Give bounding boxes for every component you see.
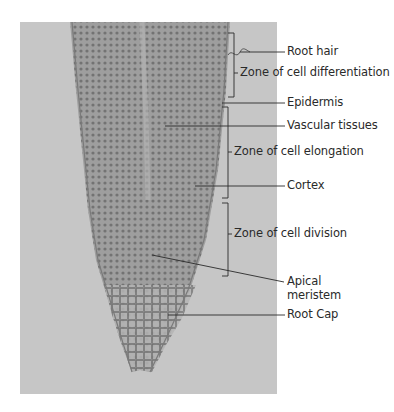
label-zone-division: Zone of cell division <box>234 227 347 240</box>
root-tip-diagram: Root hair Zone of cell differentiation E… <box>0 0 394 412</box>
label-zone-differentiation: Zone of cell differentiation <box>240 66 390 79</box>
label-epidermis: Epidermis <box>287 96 343 109</box>
label-root-cap: Root Cap <box>287 308 338 321</box>
label-zone-elongation: Zone of cell elongation <box>234 145 364 158</box>
micrograph-figure <box>0 0 394 412</box>
label-vascular-tissues: Vascular tissues <box>287 119 378 132</box>
label-root-hair: Root hair <box>287 45 338 58</box>
label-apical-meristem-line1: Apical <box>287 275 321 288</box>
label-apical-meristem-line2: meristem <box>287 289 341 302</box>
label-cortex: Cortex <box>287 179 324 192</box>
